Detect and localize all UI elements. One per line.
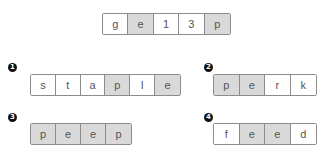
- letter-cell-shaded: e: [155, 75, 180, 95]
- reference-letter-row: g e 1 3 p: [102, 13, 231, 35]
- letter-cell-shaded: p: [31, 124, 56, 144]
- option-4-marker: 4: [204, 113, 213, 122]
- letter-cell-shaded: e: [56, 124, 81, 144]
- letter-cell: k: [291, 75, 316, 95]
- option-3-marker: 3: [8, 113, 17, 122]
- letter-cell: r: [265, 75, 291, 95]
- letter-cell-shaded: e: [240, 75, 266, 95]
- letter-cell-shaded: p: [105, 75, 130, 95]
- letter-cell-shaded: p: [106, 124, 131, 144]
- letter-cell: l: [130, 75, 155, 95]
- letter-cell: t: [56, 75, 81, 95]
- option-2-letter-row: p e r k: [213, 74, 317, 96]
- letter-cell-shaded: p: [205, 14, 230, 34]
- letter-cell: s: [31, 75, 56, 95]
- letter-cell: f: [214, 124, 240, 144]
- letter-cell: 3: [179, 14, 204, 34]
- letter-cell-shaded: e: [265, 124, 291, 144]
- option-4-letter-row: f e e d: [213, 123, 317, 145]
- option-1-letter-row: s t a p l e: [30, 74, 181, 96]
- letter-cell-shaded: e: [240, 124, 266, 144]
- letter-cell-shaded: e: [81, 124, 106, 144]
- letter-cell: 1: [154, 14, 179, 34]
- letter-cell-shaded: p: [214, 75, 240, 95]
- letter-cell: g: [103, 14, 128, 34]
- option-3-letter-row: p e e p: [30, 123, 132, 145]
- letter-cell: a: [81, 75, 106, 95]
- letter-cell: d: [291, 124, 316, 144]
- letter-cell-shaded: e: [128, 14, 153, 34]
- option-2-marker: 2: [204, 63, 213, 72]
- option-1-marker: 1: [8, 63, 17, 72]
